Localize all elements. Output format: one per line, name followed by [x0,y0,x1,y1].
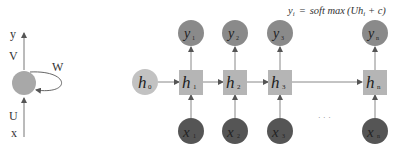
output-node [362,20,388,46]
output-node [222,20,248,46]
svg-text:y: y [366,26,375,41]
initial-hidden-node: h 0 [132,69,158,95]
svg-text:h: h [366,73,375,92]
timestep-3: y 3 h 3 x 3 [267,20,293,144]
svg-text:1: 1 [193,83,197,91]
output-node [178,20,204,46]
timestep-n: y n h n x n [362,20,388,144]
svg-text:n: n [377,133,380,139]
svg-text:0: 0 [148,83,152,91]
svg-text:1: 1 [192,35,195,41]
svg-text:2: 2 [236,35,239,41]
svg-text:y: y [271,26,280,41]
svg-text:y: y [226,26,235,41]
input-node [178,118,204,144]
folded-input-weight: U [9,109,18,123]
svg-text:h: h [182,73,191,92]
folded-hidden-node [12,71,36,95]
svg-text:h: h [226,73,235,92]
svg-text:2: 2 [237,133,240,139]
timestep-2: y 2 h 2 x 2 [222,20,248,144]
svg-text:n: n [376,35,379,41]
folded-rnn: y V W U x [9,27,64,140]
input-node [362,118,388,144]
folded-output-weight: V [9,49,18,63]
svg-text:n: n [377,83,381,91]
rnn-diagram: y V W U x yi=soft max(Uhi + c) h 0 y [0,0,399,149]
timestep-1: y 1 h 1 x 1 [178,20,204,144]
input-node [222,118,248,144]
svg-text:h: h [138,73,147,92]
svg-text:3: 3 [281,35,284,41]
folded-input-label: x [11,126,17,140]
svg-text:3: 3 [282,133,285,139]
folded-output-label: y [10,27,16,41]
input-node [267,118,293,144]
softmax-formula: yi=soft max(Uhi + c) [287,5,386,18]
output-node [267,20,293,46]
ellipsis: · · · [318,113,331,122]
svg-text:x: x [182,124,190,140]
folded-recurrent-weight: W [52,60,64,74]
svg-text:x: x [366,124,374,140]
svg-text:1: 1 [193,133,196,139]
formula-text: yi=soft max(Uhi + c) [287,5,386,18]
svg-text:3: 3 [282,83,286,91]
svg-text:x: x [226,124,234,140]
svg-text:y: y [182,26,191,41]
svg-text:x: x [271,124,279,140]
svg-text:h: h [271,73,280,92]
svg-text:2: 2 [237,83,241,91]
